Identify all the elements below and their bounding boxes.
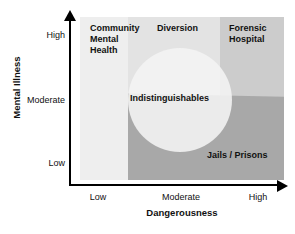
label-community-mental-health: Community Mental Health — [90, 23, 140, 56]
x-axis-arrowhead-icon — [277, 180, 288, 192]
x-axis-title: Dangerousness — [80, 207, 284, 218]
x-tick-moderate: Moderate — [155, 192, 207, 202]
y-tick-high: High — [46, 30, 65, 40]
label-forensic-hospital: Forensic Hospital — [229, 23, 267, 45]
x-tick-high: High — [240, 192, 276, 202]
y-axis-arrowhead-icon — [64, 10, 76, 21]
diagram-canvas: Community Mental Health Diversion Forens… — [0, 0, 295, 234]
x-axis-line — [69, 184, 279, 186]
x-tick-low: Low — [80, 192, 116, 202]
plot-area: Community Mental Health Diversion Forens… — [80, 17, 284, 180]
y-axis-line — [69, 20, 71, 186]
label-diversion: Diversion — [157, 23, 198, 34]
y-tick-moderate: Moderate — [27, 95, 65, 105]
y-tick-low: Low — [48, 158, 65, 168]
y-axis-title: Mental Illness — [11, 43, 22, 133]
label-indistinguishables: Indistinguishables — [130, 93, 209, 104]
label-jails-prisons: Jails / Prisons — [207, 150, 268, 161]
